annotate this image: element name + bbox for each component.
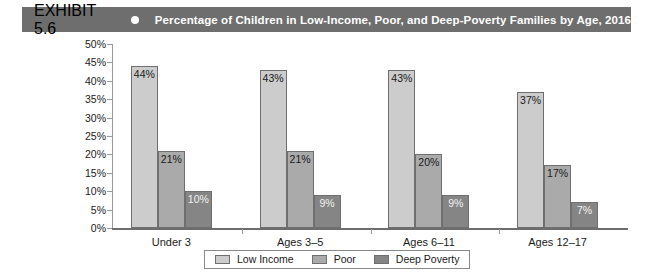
exhibit-header: EXHIBIT 5.6 Percentage of Children in Lo… [22, 7, 631, 32]
legend-label: Deep Poverty [396, 254, 460, 265]
bar-value-label: 21% [161, 154, 182, 165]
bar-poor: 20% [415, 154, 442, 228]
y-axis-tick-mark [107, 228, 112, 229]
bar-value-label: 43% [391, 73, 412, 84]
y-axis-labels: 0%5%10%15%20%25%30%35%40%45%50% [60, 36, 106, 256]
y-axis-tick-label: 5% [66, 204, 106, 215]
bar-value-label: 9% [448, 198, 463, 209]
bar-group: 43%21%9% [242, 44, 371, 228]
legend-swatch [312, 255, 327, 264]
y-axis-tick-label: 10% [66, 186, 106, 197]
bar-group: 37%17%7% [499, 44, 628, 228]
bar-poor: 17% [544, 165, 571, 228]
x-axis-tick-mark [242, 229, 243, 234]
y-axis-tick-label: 45% [66, 57, 106, 68]
y-axis-tick-mark [107, 191, 112, 192]
bar-value-label: 9% [320, 198, 335, 209]
bar-low-income: 37% [517, 92, 544, 228]
bar-value-label: 21% [290, 154, 311, 165]
legend-item: Deep Poverty [374, 254, 460, 265]
chart-legend: Low IncomePoorDeep Poverty [204, 250, 470, 269]
bar-low-income: 43% [388, 70, 415, 228]
bar-value-label: 20% [418, 157, 439, 168]
y-axis-tick-mark [107, 44, 112, 45]
legend-label: Low Income [237, 254, 294, 265]
y-axis-tick-label: 15% [66, 168, 106, 179]
y-axis-tick-label: 30% [66, 112, 106, 123]
bar-group: 44%21%10% [113, 44, 242, 228]
y-axis-tick-mark [107, 154, 112, 155]
bar-deep-poverty: 7% [571, 202, 598, 228]
bar-value-label: 10% [188, 194, 209, 205]
plot-area: 44%21%10%43%21%9%43%20%9%37%17%7% [113, 44, 628, 228]
x-axis-tick-mark [499, 229, 500, 234]
legend-swatch [374, 255, 389, 264]
bar-deep-poverty: 9% [442, 195, 469, 228]
x-axis-category-label: Under 3 [152, 236, 191, 248]
y-axis-tick-label: 20% [66, 149, 106, 160]
y-axis-tick-mark [107, 99, 112, 100]
bar-poor: 21% [158, 151, 185, 228]
bar-low-income: 43% [260, 70, 287, 228]
x-axis-category-label: Ages 12–17 [528, 236, 587, 248]
y-axis-tick-mark [107, 62, 112, 63]
bar-value-label: 7% [577, 205, 592, 216]
bar-value-label: 37% [520, 95, 541, 106]
y-axis-tick-mark [107, 118, 112, 119]
y-axis-tick-label: 0% [66, 223, 106, 234]
bar-value-label: 17% [547, 168, 568, 179]
bar-value-label: 44% [134, 69, 155, 80]
exhibit-number: EXHIBIT 5.6 [34, 2, 117, 38]
legend-item: Low Income [215, 254, 294, 265]
bar-deep-poverty: 10% [185, 191, 212, 228]
x-axis-category-label: Ages 6–11 [403, 236, 455, 248]
y-axis-tick-mark [107, 173, 112, 174]
y-axis-tick-label: 25% [66, 131, 106, 142]
x-axis-tick-mark [371, 229, 372, 234]
legend-swatch [215, 255, 230, 264]
circle-bullet-icon [131, 16, 139, 24]
x-axis-category-label: Ages 3–5 [277, 236, 323, 248]
y-axis-tick-label: 50% [66, 39, 106, 50]
bar-value-label: 43% [263, 73, 284, 84]
bar-poor: 21% [287, 151, 314, 228]
y-axis-tick-label: 40% [66, 76, 106, 87]
bar-deep-poverty: 9% [314, 195, 341, 228]
y-axis-tick-mark [107, 81, 112, 82]
bar-group: 43%20%9% [371, 44, 500, 228]
legend-label: Poor [334, 254, 356, 265]
y-axis-tick-mark [107, 210, 112, 211]
bar-chart: 0%5%10%15%20%25%30%35%40%45%50% 44%21%10… [0, 36, 659, 276]
exhibit-title: Percentage of Children in Low-Income, Po… [155, 14, 631, 26]
y-axis-tick-mark [107, 136, 112, 137]
y-axis-tick-label: 35% [66, 94, 106, 105]
legend-item: Poor [312, 254, 356, 265]
bar-low-income: 44% [131, 66, 158, 228]
